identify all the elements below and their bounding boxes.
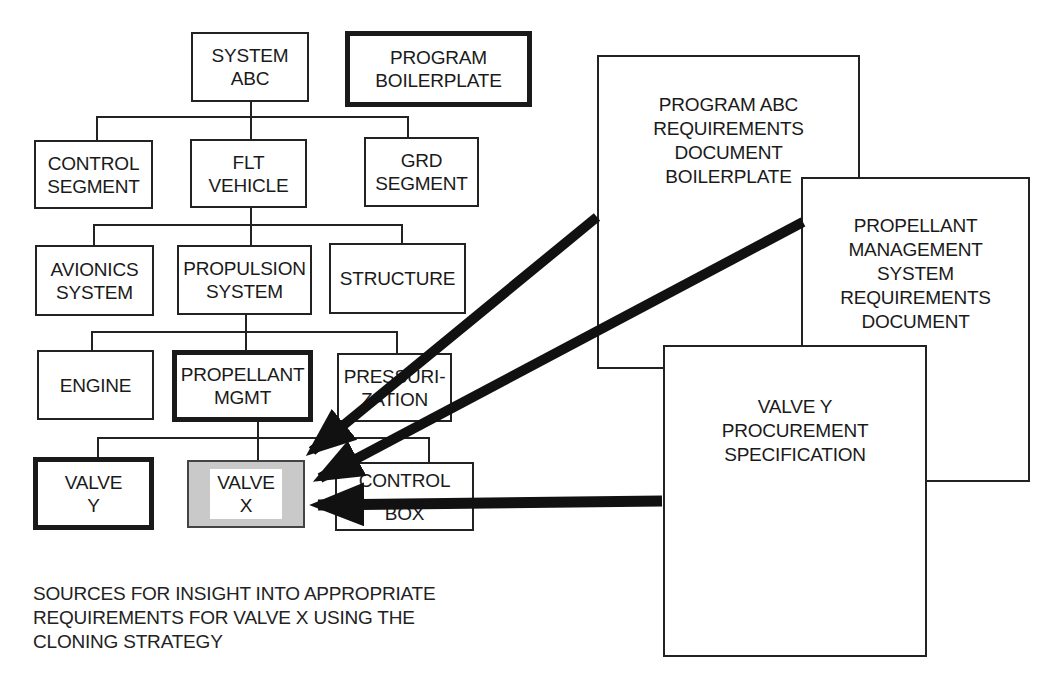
node-label: VALVE X	[210, 469, 281, 519]
connector	[96, 116, 98, 140]
node-label: GRD SEGMENT	[375, 149, 468, 195]
node-structure: STRUCTURE	[329, 243, 466, 314]
connector	[96, 116, 409, 118]
node-label: FLT VEHICLE	[209, 151, 289, 197]
document-label: PROGRAM ABC REQUIREMENTS DOCUMENT BOILER…	[599, 93, 858, 189]
node-label: PROPULSION SYSTEM	[183, 257, 306, 303]
connector	[428, 437, 430, 462]
node-label: VALVE Y	[65, 471, 122, 517]
node-label: CONTROL SEGMENT	[47, 152, 140, 198]
node-flt-vehicle: FLT VEHICLE	[190, 139, 307, 208]
node-control-segment: CONTROL SEGMENT	[34, 140, 153, 209]
node-program-boilerplate: PROGRAM BOILERPLATE	[345, 31, 532, 107]
node-label: PROPELLANT MGMT	[181, 363, 305, 409]
connector	[396, 331, 398, 353]
connector	[91, 331, 93, 350]
connector	[97, 437, 430, 439]
node-label: STRUCTURE	[340, 267, 455, 290]
node-label: SYSTEM ABC	[212, 44, 289, 90]
node-pressurization: PRESSURI- ZATION	[337, 353, 452, 422]
node-label: PRESSURI- ZATION	[344, 365, 446, 411]
connector	[250, 116, 252, 140]
connector	[401, 224, 403, 243]
connector	[257, 437, 259, 460]
node-grd-segment: GRD SEGMENT	[364, 137, 479, 207]
connector	[250, 224, 252, 245]
connector	[245, 331, 247, 350]
node-propulsion-system: PROPULSION SYSTEM	[177, 245, 312, 315]
connector	[93, 224, 95, 245]
node-label: CONTROL BOX	[359, 464, 451, 529]
node-label: AVIONICS SYSTEM	[51, 258, 139, 304]
figure-caption: SOURCES FOR INSIGHT INTO APPROPRIATE REQ…	[33, 582, 435, 654]
node-control-box: CONTROL BOX	[335, 462, 474, 531]
node-valve-x: VALVE X	[187, 460, 305, 528]
document-label: PROPELLANT MANAGEMENT SYSTEM REQUIREMENT…	[803, 214, 1028, 334]
node-label: PROGRAM BOILERPLATE	[375, 46, 501, 92]
connector	[407, 116, 409, 138]
document-valve-y-procurement-spec: VALVE Y PROCUREMENT SPECIFICATION	[663, 345, 927, 657]
connector	[93, 224, 403, 226]
connector	[97, 437, 99, 457]
node-propellant-mgmt: PROPELLANT MGMT	[172, 350, 313, 422]
node-label: ENGINE	[60, 374, 132, 397]
node-system-abc: SYSTEM ABC	[191, 32, 309, 102]
node-engine: ENGINE	[37, 350, 154, 420]
node-avionics-system: AVIONICS SYSTEM	[35, 245, 154, 316]
document-label: VALVE Y PROCUREMENT SPECIFICATION	[665, 395, 925, 467]
node-valve-y: VALVE Y	[33, 457, 154, 530]
